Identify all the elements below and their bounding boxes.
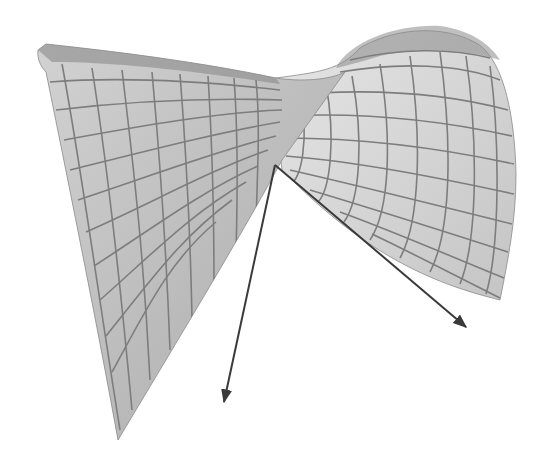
left-sheet [38,44,345,440]
right-dome-surface [276,31,516,300]
saddle-surface-figure [0,0,546,463]
figure-canvas [0,0,546,463]
left-sheet-surface [38,44,345,440]
right-dome [276,26,516,300]
